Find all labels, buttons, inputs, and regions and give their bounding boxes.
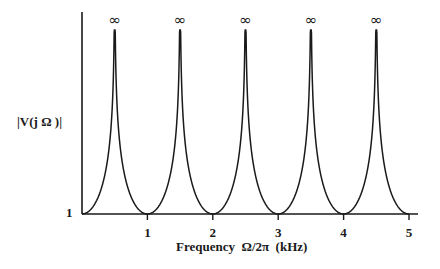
y-min-label: 1	[66, 205, 73, 221]
infinity-peak-label: ∞	[108, 11, 121, 29]
response-curve	[82, 30, 409, 214]
x-axis-ticks	[147, 214, 409, 220]
infinity-peak-label: ∞	[305, 11, 318, 29]
infinity-peak-label: ∞	[370, 11, 383, 29]
infinity-peak-label: ∞	[239, 11, 252, 29]
x-axis-label: Frequency Ω/2π (kHz)	[176, 239, 307, 255]
x-tick-labels: 12345	[144, 225, 413, 240]
x-tick-label: 3	[275, 225, 282, 240]
x-tick-label: 2	[210, 225, 217, 240]
magnitude-response-chart: ∞∞∞∞∞ 12345	[0, 0, 440, 269]
x-tick-label: 1	[144, 225, 151, 240]
y-axis-label: |V(j Ω )|	[17, 114, 62, 130]
x-tick-label: 4	[340, 225, 347, 240]
x-tick-label: 5	[406, 225, 413, 240]
infinity-peak-label: ∞	[174, 11, 187, 29]
peak-labels: ∞∞∞∞∞	[108, 11, 382, 29]
